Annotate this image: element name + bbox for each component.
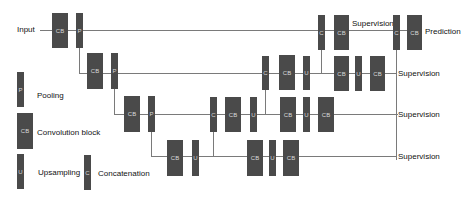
conv-block: CB: [334, 15, 349, 50]
legend-upsampling-icon: U: [17, 154, 24, 189]
supervision-label: Supervision: [398, 152, 440, 161]
conv-block: CB: [52, 13, 68, 48]
supervision-label: Supervision: [352, 19, 394, 28]
row1-down: [79, 48, 80, 73]
upsampling-block: U: [250, 97, 257, 132]
conv-block: CB: [370, 56, 385, 91]
upsampling-block: U: [303, 56, 310, 90]
input-label: Input: [17, 25, 35, 34]
prediction-label: Prediction: [425, 27, 461, 36]
conv-block: CB: [247, 140, 263, 176]
pooling-block: P: [111, 53, 118, 89]
conv-block: CB: [407, 15, 422, 50]
input-line: [40, 30, 52, 31]
legend-conv-label: Convolution block: [37, 128, 100, 137]
upsampling-block: U: [303, 97, 310, 132]
conv-block: CB: [225, 97, 241, 132]
legend-upsampling-label: Upsampling: [38, 168, 80, 177]
conv-block: CB: [124, 96, 140, 132]
concat-block: C: [393, 15, 400, 50]
legend-conv-icon: CB: [17, 113, 33, 149]
pooling-block: P: [76, 13, 83, 48]
legend-pooling-label: Pooling: [37, 91, 64, 100]
conv-block: CB: [280, 97, 296, 132]
row2-down: [114, 89, 115, 114]
concat-block: C: [210, 97, 217, 132]
conv-block: CB: [279, 55, 295, 90]
legend-concat-label: Concatenation: [98, 169, 150, 178]
concat-block: C: [262, 56, 269, 90]
conv-block: CB: [167, 140, 183, 176]
upsampling-block: U: [269, 140, 276, 176]
conv-block: CB: [87, 53, 103, 89]
conv-block: CB: [318, 97, 334, 132]
concat-block: C: [318, 15, 325, 50]
conv-block: CB: [283, 140, 299, 176]
pooling-block: P: [148, 96, 155, 132]
supervision-label: Supervision: [398, 69, 440, 78]
legend-concat-icon: C: [84, 155, 91, 190]
upsampling-block: U: [355, 56, 362, 91]
row2-line: [79, 73, 397, 74]
legend-pooling-icon: P: [17, 72, 24, 107]
row3-down: [151, 132, 152, 156]
supervision-label: Supervision: [398, 110, 440, 119]
row1-skip-line: [68, 30, 408, 31]
conv-block: CB: [334, 56, 349, 91]
upsampling-block: U: [192, 140, 199, 176]
